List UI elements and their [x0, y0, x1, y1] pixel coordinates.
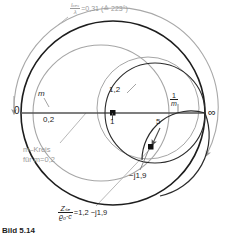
bottom-formula-numerator: Zₛₑ [58, 205, 73, 213]
top-formula-numerator: lₒₑₛ [70, 2, 80, 9]
figure-container: lₒₑₛ λ =0,31 (≙ 223°) 0 m 0,2 1 5 ∞ 1 m … [0, 0, 228, 236]
top-formula-rhs: =0,31 (≙ 223°) [81, 5, 128, 12]
inv-m-label: 1 m [170, 92, 178, 107]
reactance-arc-ext [160, 113, 209, 196]
bottom-formula: Zₛₑ ϱ₀·c =1,2 −j1,9 [58, 205, 107, 220]
m-circle-annotation-line2: für m=0,2 [23, 156, 55, 164]
axis-label-five: 5 [156, 118, 160, 126]
axis-label-m: m [38, 90, 45, 98]
figure-caption: Bild 5.14 [2, 226, 35, 235]
point-arrow [153, 128, 160, 143]
inv-m-denominator: m [170, 100, 178, 107]
point-real-label: 1,2 [109, 86, 120, 94]
top-formula: lₒₑₛ λ =0,31 (≙ 223°) [70, 2, 128, 15]
axis-label-m-value: 0,2 [43, 116, 54, 124]
axis-label-one: 1 [110, 118, 114, 126]
bottom-formula-denominator: ϱ₀·c [58, 213, 73, 220]
operating-point-marker [148, 144, 154, 150]
axis-label-zero: 0 [14, 106, 20, 116]
m-circle-annotation-line1: m–Kreis [23, 146, 51, 154]
bottom-formula-rhs: =1,2 −j1,9 [74, 209, 107, 217]
point-imag-leader [140, 149, 149, 170]
top-formula-denominator: λ [70, 9, 80, 15]
point-imag-label: −j1,9 [129, 172, 147, 180]
axis-label-infinity: ∞ [208, 107, 216, 118]
